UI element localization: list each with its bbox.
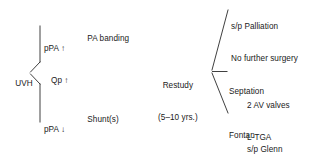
node-shunts: Shunt(s): [78, 104, 119, 136]
node-palliation-title: s/p Palliation: [231, 22, 298, 33]
node-criteria-pa-banding: pPA ↑ Qp ↑: [44, 23, 69, 107]
connector-restudy-to-fontan: [212, 73, 228, 113]
node-restudy: Restudy (5–10 yrs.): [158, 60, 198, 144]
node-restudy-label: Restudy: [158, 81, 198, 92]
connector-restudy-to-palliation: [212, 10, 228, 70]
criteria-ppa-up: pPA ↑: [44, 44, 69, 55]
node-palliation-detail: No further surgery: [231, 54, 298, 65]
criteria-ppa-down: pPA ↓: [44, 125, 69, 136]
diagram-canvas: UVH pPA ↑ Qp ↑ PA banding pPA ↓ Qp ↓ Shu…: [0, 0, 322, 156]
criteria-qp-up: Qp ↑: [51, 76, 69, 87]
node-pa-banding: PA banding: [78, 23, 129, 55]
node-uvh: UVH: [6, 68, 33, 100]
node-shunts-label: Shunt(s): [87, 115, 118, 124]
node-fontan-criteria: s/p Glenn Common AV valve PVR ↓ ↓: [247, 124, 315, 156]
fontan-criterion-glenn: s/p Glenn: [247, 145, 315, 156]
node-restudy-interval: (5–10 yrs.): [158, 113, 198, 124]
node-pa-banding-label: PA banding: [87, 34, 129, 43]
node-uvh-label: UVH: [15, 79, 32, 88]
node-criteria-shunts: pPA ↓ Qp ↓: [44, 104, 69, 156]
